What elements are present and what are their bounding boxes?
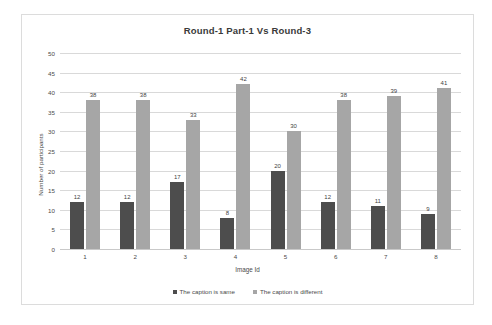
- bar-value-label: 12: [74, 194, 81, 200]
- bar[interactable]: 20: [271, 171, 285, 249]
- bar-rect: [387, 96, 401, 249]
- bar[interactable]: 41: [437, 88, 451, 249]
- bar-value-label: 30: [290, 123, 297, 129]
- y-axis-tick-label: 0: [52, 246, 55, 253]
- y-axis-tick-label: 50: [48, 50, 55, 57]
- x-axis-tick-label: 7: [361, 253, 411, 260]
- bar-rect: [220, 218, 234, 249]
- bar[interactable]: 9: [421, 214, 435, 249]
- bar-value-label: 8: [226, 210, 229, 216]
- bar[interactable]: 17: [170, 182, 184, 249]
- plot-area: 50454035302520151050 1238123817338422030…: [60, 53, 461, 249]
- y-axis-tick-label: 25: [48, 148, 55, 155]
- bar-rect: [70, 202, 84, 249]
- bar[interactable]: 39: [387, 96, 401, 249]
- x-axis-tick-label: 6: [311, 253, 361, 260]
- bar-value-label: 38: [340, 92, 347, 98]
- bar[interactable]: 12: [120, 202, 134, 249]
- bar-group: 1733: [160, 53, 210, 249]
- bar[interactable]: 38: [337, 100, 351, 249]
- bar-rect: [170, 182, 184, 249]
- legend-swatch-icon: [253, 290, 257, 294]
- legend-label: The caption is different: [260, 288, 323, 295]
- x-axis-tick-label: 3: [160, 253, 210, 260]
- x-axis-title: Image Id: [22, 266, 473, 273]
- y-axis-tick-label: 45: [48, 69, 55, 76]
- bars-layer: 123812381733842203012381139941: [60, 53, 461, 249]
- chart-title: Round-1 Part-1 Vs Round-3: [22, 25, 473, 36]
- bar[interactable]: 30: [287, 131, 301, 249]
- bar-group: 941: [411, 53, 461, 249]
- x-axis-tick-label: 1: [60, 253, 110, 260]
- bar[interactable]: 42: [236, 84, 250, 249]
- bar-value-label: 9: [426, 206, 429, 212]
- y-axis-tick-label: 10: [48, 206, 55, 213]
- bar-rect: [421, 214, 435, 249]
- x-axis-tick-label: 2: [110, 253, 160, 260]
- bar-rect: [337, 100, 351, 249]
- y-axis-tick-label: 40: [48, 89, 55, 96]
- bar-rect: [136, 100, 150, 249]
- bar-group: 1238: [110, 53, 160, 249]
- bar-group: 1238: [311, 53, 361, 249]
- bar-rect: [437, 88, 451, 249]
- bar-value-label: 41: [441, 80, 448, 86]
- gridline: [60, 249, 461, 250]
- bar-rect: [86, 100, 100, 249]
- bar-value-label: 38: [90, 92, 97, 98]
- legend-item[interactable]: The caption is different: [253, 288, 323, 295]
- bar-value-label: 20: [274, 163, 281, 169]
- bar-group: 842: [210, 53, 260, 249]
- bar-rect: [371, 206, 385, 249]
- legend-label: The caption is same: [180, 288, 235, 295]
- y-axis-tick-label: 35: [48, 108, 55, 115]
- bar-rect: [287, 131, 301, 249]
- bar-value-label: 12: [124, 194, 131, 200]
- x-axis-tick-label: 4: [210, 253, 260, 260]
- y-axis-tick-label: 30: [48, 128, 55, 135]
- bar-value-label: 33: [190, 112, 197, 118]
- bar[interactable]: 38: [86, 100, 100, 249]
- bar-rect: [186, 120, 200, 249]
- legend-swatch-icon: [173, 290, 177, 294]
- x-axis-ticks: 12345678: [60, 253, 461, 260]
- chart-legend: The caption is sameThe caption is differ…: [22, 288, 473, 295]
- bar[interactable]: 12: [70, 202, 84, 249]
- bar-group: 1238: [60, 53, 110, 249]
- x-axis-tick-label: 5: [261, 253, 311, 260]
- y-axis-tick-label: 20: [48, 167, 55, 174]
- bar[interactable]: 12: [321, 202, 335, 249]
- y-axis-tick-label: 15: [48, 187, 55, 194]
- y-axis-title: Number of participants: [37, 95, 44, 235]
- bar[interactable]: 11: [371, 206, 385, 249]
- bar-value-label: 42: [240, 76, 247, 82]
- bar-value-label: 38: [140, 92, 147, 98]
- bar-value-label: 12: [324, 194, 331, 200]
- chart-frame: Round-1 Part-1 Vs Round-3 Number of part…: [21, 14, 474, 305]
- bar-group: 1139: [361, 53, 411, 249]
- bar-rect: [271, 171, 285, 249]
- bar-rect: [236, 84, 250, 249]
- bar-rect: [321, 202, 335, 249]
- y-axis-tick-label: 5: [52, 226, 55, 233]
- bar[interactable]: 8: [220, 218, 234, 249]
- bar[interactable]: 38: [136, 100, 150, 249]
- bar[interactable]: 33: [186, 120, 200, 249]
- bar-value-label: 17: [174, 174, 181, 180]
- bar-group: 2030: [261, 53, 311, 249]
- bar-rect: [120, 202, 134, 249]
- bar-value-label: 11: [375, 198, 381, 204]
- legend-item[interactable]: The caption is same: [173, 288, 235, 295]
- bar-value-label: 39: [390, 88, 397, 94]
- x-axis-tick-label: 8: [411, 253, 461, 260]
